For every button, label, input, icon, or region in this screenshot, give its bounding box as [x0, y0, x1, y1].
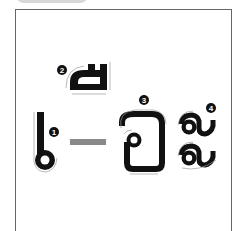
stroke-order-diagram: 2 1 3 4	[0, 0, 242, 231]
svg-text:3: 3	[142, 96, 147, 105]
svg-text:2: 2	[60, 66, 65, 75]
svg-text:4: 4	[209, 104, 214, 113]
svg-text:1: 1	[52, 128, 57, 137]
separator-dash	[70, 139, 106, 145]
character-3: 3	[121, 95, 166, 174]
character-2: 2	[57, 62, 110, 94]
character-4: 4	[178, 103, 216, 169]
character-1: 1	[34, 112, 59, 172]
